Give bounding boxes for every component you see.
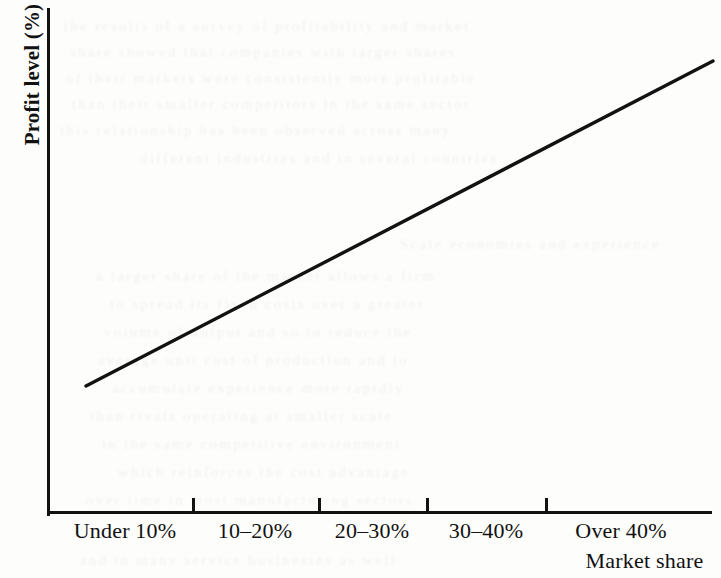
showthrough-text-line: a larger share of the market allows a fi… (96, 269, 436, 285)
showthrough-text-line: volume of output and so to reduce the (104, 325, 412, 341)
x-axis-tick (192, 498, 195, 512)
showthrough-text-line: average unit cost of production and to (98, 353, 409, 369)
x-axis-title: Market share (572, 548, 717, 574)
showthrough-text-line: than rivals operating at smaller scale (90, 409, 393, 425)
showthrough-text-line: different industries and in several coun… (140, 151, 498, 167)
showthrough-text-line: the results of a survey of profitability… (64, 19, 470, 35)
showthrough-text-line: accumulate experience more rapidly (112, 381, 405, 397)
x-tick-label-under-10: Under 10% (60, 518, 190, 544)
x-tick-label-10-20: 10–20% (195, 518, 315, 544)
showthrough-text-line: than their smaller competitors in the sa… (72, 97, 471, 113)
showthrough-text-line: which reinforces the cost advantage (118, 465, 410, 481)
x-axis-tick (545, 498, 548, 512)
y-axis-line (47, 8, 50, 516)
page-showthrough-layer: the results of a survey of profitability… (0, 0, 721, 578)
x-axis-tick (426, 498, 429, 512)
x-tick-label-over-40: Over 40% (556, 518, 686, 544)
figure-container: the results of a survey of profitability… (0, 0, 721, 578)
showthrough-text-line: in the same competitive environment (102, 437, 401, 453)
showthrough-text-line: this relationship has been observed acro… (60, 123, 452, 139)
showthrough-text-line: to spread its fixed costs over a greater (110, 297, 425, 313)
x-tick-label-30-40: 30–40% (426, 518, 546, 544)
showthrough-text-line: over time in most manufacturing sectors (86, 493, 414, 509)
showthrough-text-line: share showed that companies with larger … (70, 45, 457, 61)
x-axis-tick (318, 498, 321, 512)
x-tick-label-20-30: 20–30% (312, 518, 432, 544)
profit-trend-line (86, 61, 713, 386)
x-axis-line (47, 511, 712, 514)
chart-plot-area (0, 0, 721, 578)
showthrough-text-line: Scale economies and experience (400, 237, 661, 253)
y-axis-title: Profit level (%) (20, 0, 45, 160)
showthrough-text-line: of their markets were consistently more … (66, 71, 476, 87)
showthrough-text-line: and in many service businesses as well (80, 553, 397, 569)
